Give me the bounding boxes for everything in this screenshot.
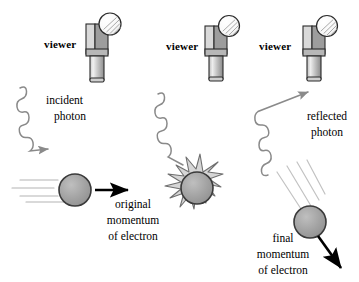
final-momentum-label-line1: final — [236, 232, 330, 245]
viewer-label-3: viewer — [259, 40, 291, 52]
electron-sphere-2 — [181, 172, 213, 204]
viewer-label-1: viewer — [44, 38, 76, 50]
viewer-apparatus-2 — [205, 16, 240, 82]
viewer-label-2: viewer — [166, 40, 198, 52]
speed-lines-3 — [277, 160, 325, 212]
viewer-apparatus-1 — [86, 13, 121, 82]
incident-photon-label-line2: photon — [54, 110, 86, 123]
incident-photon-wave — [17, 87, 48, 151]
collision-photon-wave — [155, 93, 183, 165]
final-momentum-label-line2: momentum — [236, 248, 330, 261]
reflected-photon-label-line2: photon — [296, 126, 358, 139]
original-momentum-label-line3: of electron — [86, 230, 180, 243]
viewer-apparatus-3 — [303, 16, 338, 82]
original-momentum-label-line2: momentum — [86, 214, 180, 227]
final-momentum-label-line3: of electron — [236, 264, 330, 277]
reflected-photon-label-line1: reflected — [296, 110, 358, 123]
incident-photon-label-line1: incident — [46, 94, 83, 107]
original-momentum-label-line1: original — [86, 198, 180, 211]
speed-lines-1 — [12, 180, 64, 202]
compton-scattering-diagram: viewer viewer viewer incident photon ori… — [0, 0, 359, 282]
